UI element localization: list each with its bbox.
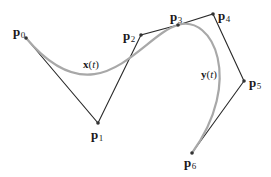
point-p5-dot: [242, 79, 246, 83]
label-p5: p5: [249, 76, 261, 91]
label-p4: p4: [218, 9, 230, 24]
label-curve-y: y(t): [201, 69, 217, 80]
label-p3: p3: [170, 10, 182, 25]
curve-x: [26, 25, 178, 75]
label-p0: p0: [13, 25, 25, 40]
label-p6: p6: [184, 156, 196, 171]
point-p2-dot: [139, 33, 143, 37]
diagram-graphics: [0, 0, 271, 177]
label-p1: p1: [91, 128, 103, 143]
curve-y: [178, 24, 220, 153]
label-curve-x: x(t): [83, 59, 99, 70]
label-p2: p2: [123, 29, 135, 44]
point-p1-dot: [96, 121, 100, 125]
bezier-diagram: p0 p1 p2 p3 p4 p5 p6 x(t) y(t): [0, 0, 271, 177]
point-p4-dot: [211, 12, 215, 16]
